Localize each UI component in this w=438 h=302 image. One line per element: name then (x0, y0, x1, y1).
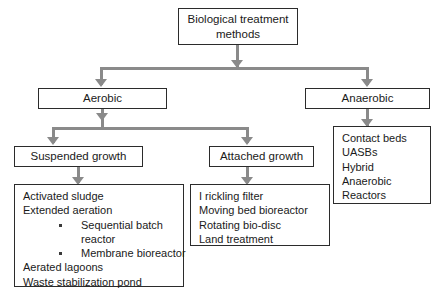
node-attached-growth: Attached growth (209, 146, 314, 167)
anaerobic-item: Hybrid (342, 160, 430, 174)
suspended-growth-item-continuation: reactor (23, 232, 183, 246)
node-label-suspended-growth: Suspended growth (31, 149, 127, 163)
anaerobic-item-label: Contact beds (342, 132, 407, 144)
anaerobic-item: Anaerobic (342, 174, 430, 188)
anaerobic-item-label: Hybrid (342, 161, 374, 173)
node-anaerobic: Anaerobic (305, 88, 430, 109)
flowchart-canvas: Biological treatment methods Aerobic Ana… (0, 0, 438, 302)
attached-growth-item-label: I rickling filter (199, 190, 263, 202)
attached-growth-item: Rotating bio-disc (199, 218, 329, 232)
suspended-growth-bulleted-item: Sequential batch (23, 218, 183, 232)
suspended-growth-item-label: reactor (81, 233, 115, 245)
node-suspended-growth-methods-list: Activated sludgeExtended aerationSequent… (14, 184, 184, 287)
attached-growth-item: I rickling filter (199, 189, 329, 203)
node-attached-growth-methods-list: I rickling filterMoving bed bioreactorRo… (190, 184, 330, 246)
arrowhead-to-aerobic (95, 79, 107, 87)
node-label-aerobic: Aerobic (83, 91, 122, 105)
suspended-growth-item-label: Waste stabilization pond (23, 276, 142, 288)
connector-aerobic-split-bar (52, 127, 248, 130)
bullet-icon (59, 252, 62, 255)
node-label-anaerobic: Anaerobic (342, 91, 394, 105)
anaerobic-items-container: Contact bedsUASBsHybridAnaerobicReactors (342, 131, 430, 202)
arrowhead-to-suspended-growth (47, 137, 59, 145)
suspended-growth-item: Extended aeration (23, 203, 183, 217)
arrowhead-to-anaerobic (361, 79, 373, 87)
node-anaerobic-methods-list: Contact bedsUASBsHybridAnaerobicReactors (333, 126, 431, 204)
attached-growth-item: Land treatment (199, 232, 329, 246)
node-label-attached-growth: Attached growth (220, 149, 303, 163)
node-biological-treatment-methods: Biological treatment methods (178, 8, 298, 45)
suspended-growth-item: Aerated lagoons (23, 260, 183, 274)
anaerobic-item-label: Anaerobic (342, 175, 392, 187)
node-label-root: Biological treatment methods (188, 12, 289, 41)
suspended-growth-item-label: Sequential batch (81, 219, 163, 231)
suspended-growth-item-label: Extended aeration (23, 204, 112, 216)
anaerobic-item-label: Reactors (342, 189, 386, 201)
attached-items-container: I rickling filterMoving bed bioreactorRo… (199, 189, 329, 246)
root-label-line1: Biological treatment (188, 12, 289, 26)
suspended-items-container: Activated sludgeExtended aerationSequent… (23, 189, 183, 289)
suspended-growth-item-label: Membrane bioreactor (81, 247, 186, 259)
anaerobic-item: Reactors (342, 188, 430, 202)
anaerobic-item-label: UASBs (342, 146, 377, 158)
attached-growth-item-label: Moving bed bioreactor (199, 204, 308, 216)
node-aerobic: Aerobic (38, 88, 167, 109)
attached-growth-item: Moving bed bioreactor (199, 203, 329, 217)
bullet-icon (59, 224, 62, 227)
anaerobic-item: Contact beds (342, 131, 430, 145)
suspended-growth-item: Waste stabilization pond (23, 275, 183, 289)
suspended-growth-item-label: Aerated lagoons (23, 261, 103, 273)
arrowhead-aerobic-stem (96, 113, 108, 121)
anaerobic-item: UASBs (342, 145, 430, 159)
arrowhead-to-attached-growth (241, 137, 253, 145)
attached-growth-item-label: Rotating bio-disc (199, 219, 281, 231)
suspended-growth-bulleted-item: Membrane bioreactor (23, 246, 183, 260)
root-label-line2: methods (188, 27, 289, 41)
suspended-growth-item-label: Activated sludge (23, 190, 104, 202)
attached-growth-item-label: Land treatment (199, 233, 273, 245)
node-suspended-growth: Suspended growth (14, 146, 143, 167)
connector-root-split-bar (100, 67, 369, 70)
suspended-growth-item: Activated sludge (23, 189, 183, 203)
